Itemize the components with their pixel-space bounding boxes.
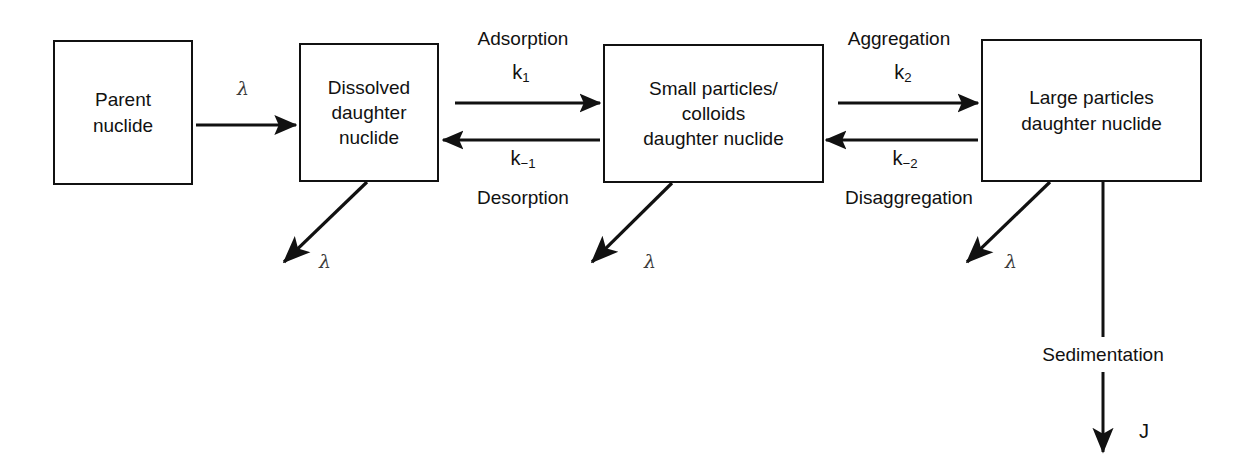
box-small-particles-daughter-nuclide[interactable]: Small particles/ colloids daughter nucli… (603, 44, 824, 183)
decay-label-parent-to-dissolved: λ (237, 77, 249, 99)
box-dissolved-daughter-nuclide-label: Dissolved daughter nuclide (322, 75, 416, 150)
rate-constant-k1-reverse-subscript: −1 (520, 156, 535, 171)
decay-label-small-particles: λ (644, 250, 656, 272)
rate-constant-k1-forward-symbol: k (512, 61, 522, 83)
rate-constant-k2-reverse: k−2 (892, 147, 917, 172)
process-label-sedimentation: Sedimentation (1035, 342, 1170, 368)
decay-label-large-particles: λ (1005, 250, 1017, 272)
rate-constant-k2-forward-subscript: 2 (904, 70, 911, 85)
box-large-particles-daughter-nuclide[interactable]: Large particles daughter nuclide (981, 39, 1202, 182)
rate-constant-k2-reverse-subscript: −2 (902, 156, 917, 171)
box-parent-nuclide[interactable]: Parent nuclide (53, 40, 193, 185)
box-dissolved-daughter-nuclide[interactable]: Dissolved daughter nuclide (299, 43, 439, 182)
rate-constant-k1-forward: k1 (512, 61, 529, 86)
process-label-aggregation: Aggregation (848, 28, 950, 50)
rate-constant-k2-reverse-symbol: k (892, 147, 902, 169)
rate-constant-k2-forward: k2 (894, 61, 911, 86)
process-label-adsorption: Adsorption (478, 28, 569, 50)
box-small-particles-daughter-nuclide-label: Small particles/ colloids daughter nucli… (637, 76, 790, 151)
box-parent-nuclide-label: Parent nuclide (87, 87, 159, 137)
diagram-canvas: Parent nuclide Dissolved daughter nuclid… (0, 0, 1248, 467)
box-large-particles-daughter-nuclide-label: Large particles daughter nuclide (1015, 85, 1168, 135)
rate-constant-k2-forward-symbol: k (894, 61, 904, 83)
flux-label-j: J (1139, 420, 1149, 443)
rate-constant-k1-forward-subscript: 1 (522, 70, 529, 85)
decay-label-dissolved: λ (319, 250, 331, 272)
process-label-desorption: Desorption (477, 187, 569, 209)
arrow-decay-small-particles (592, 183, 672, 262)
rate-constant-k1-reverse-symbol: k (510, 147, 520, 169)
rate-constant-k1-reverse: k−1 (510, 147, 535, 172)
process-label-disaggregation: Disaggregation (845, 187, 973, 209)
